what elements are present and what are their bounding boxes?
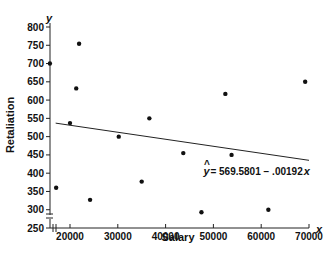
y-tick-label: 300: [27, 204, 44, 215]
equation-text: = 569.5801 − .00192: [210, 166, 303, 177]
data-point: [77, 42, 81, 46]
x-tick-label: 30000: [104, 231, 132, 242]
y-tick-label: 500: [27, 131, 44, 142]
y-tick-label: 250: [27, 223, 44, 234]
data-point: [54, 186, 58, 190]
hat-accent: ^: [204, 159, 210, 170]
data-point: [117, 134, 121, 138]
x-tick-label: 50000: [199, 231, 227, 242]
y-tick-label: 450: [27, 149, 44, 160]
data-point: [199, 210, 203, 214]
y-tick-label: 750: [27, 40, 44, 51]
x-axis-title: Salary: [161, 231, 195, 243]
data-point: [181, 151, 185, 155]
data-point: [48, 61, 52, 65]
x-symbol: x: [303, 165, 311, 177]
data-point: [147, 116, 151, 120]
scatter-chart: 2000030000400005000060000700002503003504…: [0, 0, 334, 265]
data-point: [223, 92, 227, 96]
data-point: [74, 86, 78, 90]
x-tick-label: 60000: [247, 231, 275, 242]
data-point: [266, 208, 270, 212]
y-tick-label: 400: [27, 168, 44, 179]
regression-equation: y ^ = 569.5801 − .00192 x: [202, 159, 310, 177]
y-tick-label: 650: [27, 76, 44, 87]
y-axis-variable: y: [45, 12, 53, 24]
x-tick-label: 20000: [56, 231, 84, 242]
y-tick-label: 350: [27, 186, 44, 197]
x-axis-variable: x: [315, 223, 323, 235]
y-tick-label: 800: [27, 22, 44, 33]
y-tick-label: 600: [27, 95, 44, 106]
data-point: [303, 80, 307, 84]
data-point: [88, 198, 92, 202]
data-point: [229, 153, 233, 157]
data-point: [140, 179, 144, 183]
y-tick-label: 550: [27, 113, 44, 124]
y-tick-label: 700: [27, 58, 44, 69]
y-axis-title: Retaliation: [4, 97, 16, 154]
